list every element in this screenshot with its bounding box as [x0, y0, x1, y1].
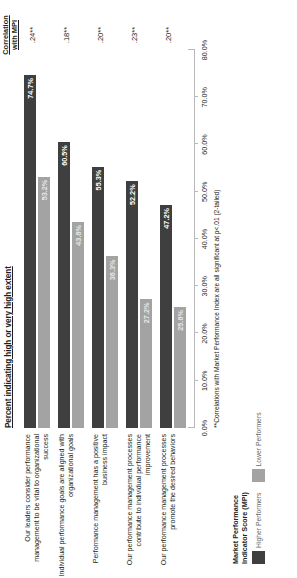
x-axis-tick [194, 333, 198, 334]
category-label: Performance management has a positive bu… [90, 434, 110, 578]
bar-value-label: 74.7% [26, 75, 35, 99]
legend-item-label: Lower Performers [255, 412, 262, 466]
correlation-value: .23** [130, 6, 139, 64]
category-label: Our performance management processes con… [124, 434, 153, 578]
chart-row: Our performance management processes con… [124, 0, 158, 578]
bar-value-label: 60.5% [60, 142, 69, 166]
legend-title-line1: Market Performance [231, 495, 240, 564]
category-label: Our leaders consider performance managem… [22, 434, 51, 578]
bar-higher-performers[interactable]: 52.2% [126, 181, 138, 428]
x-axis-tick-label: 30.0% [200, 276, 209, 296]
bar-higher-performers[interactable]: 47.2% [160, 205, 172, 428]
x-axis-tick-label: 40.0% [200, 229, 209, 249]
bar-value-label: 27.2% [142, 299, 151, 323]
bar-lower-performers[interactable]: 43.6% [72, 222, 84, 428]
bar-value-label: 55.3% [94, 167, 103, 191]
chart-row: Individual performance goals are aligned… [56, 0, 90, 578]
category-label: Our performance management processes pro… [158, 434, 178, 578]
bar-value-label: 47.2% [162, 205, 171, 229]
bar-value-label: 36.3% [108, 256, 117, 280]
rotated-figure-wrapper: Percent indicating high or very high ext… [0, 0, 297, 578]
correlation-value: .20** [96, 6, 105, 64]
bar-value-label: 43.6% [74, 222, 83, 246]
bar-lower-performers[interactable]: 27.2% [140, 299, 152, 428]
x-axis-tick-label: 50.0% [200, 182, 209, 202]
x-axis-tick-label: 60.0% [200, 134, 209, 154]
correlation-value: .20** [164, 6, 173, 64]
x-axis-tick [194, 285, 198, 286]
chart-row: Our performance management processes pro… [158, 0, 192, 578]
x-axis-tick [194, 238, 198, 239]
correlation-value: .18** [62, 6, 71, 64]
x-axis-tick-label: 80.0% [200, 40, 209, 60]
x-axis-cap-left [188, 427, 195, 428]
plot-area: Percent indicating high or very high ext… [0, 0, 222, 578]
category-label: Individual performance goals are aligned… [56, 434, 76, 578]
legend-title: Market Performance Indicator Score (MPI) [232, 334, 249, 564]
chart-row: Performance management has a positive bu… [90, 0, 124, 578]
correlation-header-line2: with MPI [10, 20, 19, 50]
correlation-value: .24** [28, 6, 37, 64]
x-axis-tick-label: 0.0% [200, 420, 209, 436]
chart-legend: Market Performance Indicator Score (MPI)… [232, 334, 265, 564]
bar-value-label: 53.2% [40, 177, 49, 201]
x-axis-tick-label: 10.0% [200, 371, 209, 391]
chart-figure: Percent indicating high or very high ext… [0, 0, 297, 578]
legend-item-lower-performers[interactable]: Lower Performers [252, 412, 265, 482]
legend-swatch-icon [252, 551, 265, 564]
x-axis-tick [194, 191, 198, 192]
bar-lower-performers[interactable]: 25.6% [174, 307, 186, 428]
chart-title: Percent indicating high or very high ext… [4, 266, 13, 428]
bar-higher-performers[interactable]: 60.5% [58, 142, 70, 428]
bar-lower-performers[interactable]: 53.2% [38, 177, 50, 428]
x-axis-tick [194, 96, 198, 97]
legend-item-label: Higher Performers [255, 492, 262, 548]
correlation-column-header: Correlation with MPI [2, 6, 19, 64]
x-axis-cap-right [188, 49, 195, 50]
bar-value-label: 52.2% [128, 181, 137, 205]
bar-higher-performers[interactable]: 55.3% [92, 167, 104, 428]
legend-item-higher-performers[interactable]: Higher Performers [252, 492, 265, 564]
legend-swatch-icon [252, 469, 265, 482]
bar-higher-performers[interactable]: 74.7% [24, 75, 36, 428]
bar-value-label: 25.6% [176, 307, 185, 331]
x-axis-tick [194, 380, 198, 381]
legend-title-line2: Indicator Score (MPI) [240, 492, 249, 564]
x-axis-tick-label: 70.0% [200, 87, 209, 107]
legend-items: Higher Performers Lower Performers [252, 334, 265, 564]
x-axis-tick [194, 144, 198, 145]
x-axis-line [194, 50, 195, 428]
x-axis-tick-label: 20.0% [200, 323, 209, 343]
chart-footnote: **Correlations with Market Performance I… [213, 190, 220, 428]
bar-lower-performers[interactable]: 36.3% [106, 256, 118, 428]
chart-row: Our leaders consider performance managem… [22, 0, 56, 578]
